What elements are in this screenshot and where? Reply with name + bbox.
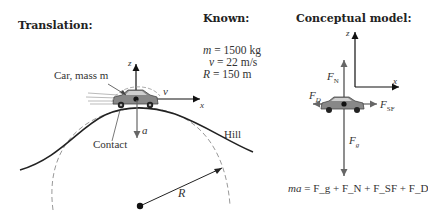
known-mass: m = 1500 kg [203,44,261,56]
model-z-label: z [346,28,350,38]
model-heading: Conceptual model: [296,12,412,25]
known-heading: Known: [203,12,249,25]
known-radius: R = 150 m [203,68,251,80]
model-x-label: x [393,76,397,86]
hill-label: Hill [224,128,241,140]
x-axis-label: x [200,100,204,110]
translation-heading: Translation: [18,19,92,32]
normal-force-label: FN [327,70,339,85]
static-friction-label: FSF [380,98,395,113]
velocity-label: v [163,85,168,97]
contact-label: Contact [93,138,127,150]
curvature-circle [52,108,230,210]
center-point [137,203,143,209]
newton-equation: ma = F_g + F_N + F_SF + F_D [288,182,428,194]
car-label: Car, mass m [54,69,108,81]
acceleration-label: a [142,124,148,136]
drag-force-label: FD [309,89,321,104]
gravity-force-label: Fg [349,134,359,149]
known-velocity: v = 22 m/s [209,56,257,68]
z-axis-label: z [128,58,132,68]
radius-label: R [178,186,185,201]
